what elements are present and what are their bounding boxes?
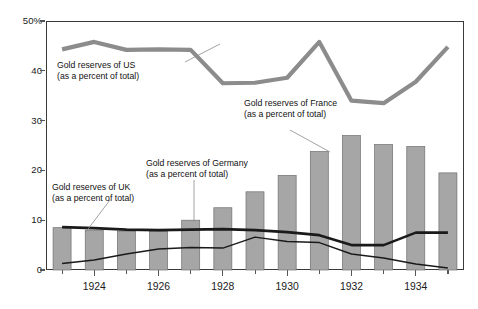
chart-root: 50%403020100 192419261928193019321934 Go… — [0, 0, 478, 309]
germany-annotation-line1: Gold reserves of Germany — [146, 158, 248, 169]
bar — [117, 231, 135, 270]
bar — [214, 208, 232, 270]
bar — [342, 136, 360, 270]
us-annotation: Gold reserves of US(as a percent of tota… — [57, 60, 139, 83]
france-annotation-line1: Gold reserves of France — [244, 98, 337, 109]
bar — [182, 220, 200, 270]
germany-annotation-line2: (as a percent of total) — [146, 169, 248, 180]
bar — [439, 173, 457, 270]
bar — [407, 147, 425, 271]
bar — [53, 228, 71, 270]
us-annotation-line1: Gold reserves of US — [57, 60, 139, 71]
bar — [278, 175, 296, 270]
bar — [375, 145, 393, 271]
france-annotation-leader-line — [290, 130, 330, 152]
us-annotation-line2: (as a percent of total) — [57, 71, 139, 82]
uk-annotation: Gold reserves of UK(as a percent of tota… — [52, 182, 134, 205]
bar — [85, 230, 103, 270]
germany-annotation: Gold reserves of Germany(as a percent of… — [146, 158, 248, 181]
france-annotation: Gold reserves of France(as a percent of … — [244, 98, 337, 121]
chart-series-layer — [0, 0, 478, 309]
uk-annotation-line2: (as a percent of total) — [52, 193, 134, 204]
france-annotation-line2: (as a percent of total) — [244, 109, 337, 120]
bar — [310, 151, 328, 270]
uk-annotation-line1: Gold reserves of UK — [52, 182, 134, 193]
